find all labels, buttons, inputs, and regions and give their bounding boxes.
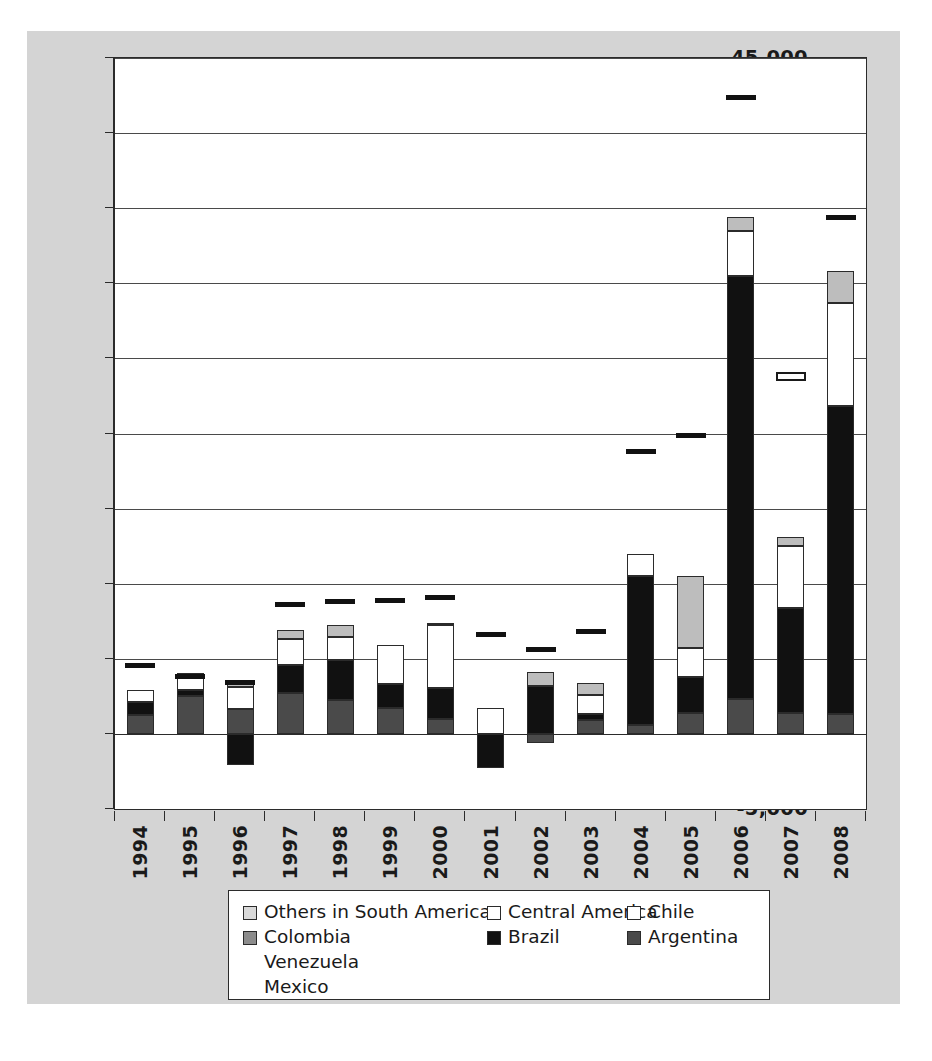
series-marker-mexico[interactable] <box>476 632 506 637</box>
series-marker-mexico[interactable] <box>225 680 255 685</box>
legend-swatch-icon <box>243 956 257 970</box>
x-axis-tick-label: 1995 <box>179 825 201 879</box>
legend-item-label: Chile <box>648 903 694 922</box>
legend-swatch-icon <box>243 931 257 945</box>
legend-column: Others in South AmericaColombiaVenezuela… <box>243 900 491 1000</box>
plot-frame <box>114 57 867 810</box>
x-axis-tick-mark <box>214 811 215 821</box>
legend-item[interactable]: Mexico <box>243 975 491 1000</box>
series-marker-mexico[interactable] <box>526 647 556 652</box>
x-axis-tick-mark <box>715 811 716 821</box>
x-axis-tick-label: 1996 <box>229 825 251 879</box>
x-axis-tick-label: 1999 <box>379 825 401 879</box>
legend-column: ChileArgentina <box>627 900 738 950</box>
x-axis-tick-label: 2005 <box>680 825 702 879</box>
x-axis-tick-mark <box>364 811 365 821</box>
series-marker-mexico[interactable] <box>676 433 706 438</box>
x-axis-tick-mark <box>515 811 516 821</box>
legend-item-label: Brazil <box>508 928 560 947</box>
legend-item[interactable]: Colombia <box>243 925 491 950</box>
page: 45,00040,00035,00030,00025,00020,00015,0… <box>0 0 932 1061</box>
x-axis-tick-label: 1994 <box>129 825 151 879</box>
legend-item-label: Venezuela <box>264 953 359 972</box>
x-axis-tick-mark <box>314 811 315 821</box>
plot-area <box>115 58 866 809</box>
legend-item-label: Colombia <box>264 928 351 947</box>
x-axis-tick-label: 2003 <box>580 825 602 879</box>
x-axis-tick-label: 2006 <box>730 825 752 879</box>
chart-legend: Others in South AmericaColombiaVenezuela… <box>228 890 770 1000</box>
legend-swatch-icon <box>487 931 501 945</box>
series-marker-mexico[interactable] <box>125 663 155 668</box>
legend-item[interactable]: Argentina <box>627 925 738 950</box>
bar-segment[interactable] <box>827 271 854 303</box>
x-axis-tick-mark <box>815 811 816 821</box>
legend-item[interactable]: Others in South America <box>243 900 491 925</box>
x-axis-tick-label: 2000 <box>429 825 451 879</box>
x-axis-tick-label: 1997 <box>279 825 301 879</box>
legend-swatch-icon <box>487 906 501 920</box>
legend-swatch-icon <box>627 906 641 920</box>
legend-swatch-icon <box>243 981 257 995</box>
x-axis-tick-mark <box>615 811 616 821</box>
y-axis-tick-mark <box>105 808 114 809</box>
x-axis-tick-mark <box>164 811 165 821</box>
x-axis-tick-mark <box>665 811 666 821</box>
x-axis-tick-mark <box>264 811 265 821</box>
x-axis-tick-mark <box>765 811 766 821</box>
legend-item[interactable]: Venezuela <box>243 950 491 975</box>
series-marker-mexico[interactable] <box>576 629 606 634</box>
x-axis-tick-label: 2002 <box>530 825 552 879</box>
bar-group[interactable] <box>115 58 866 809</box>
x-axis-tick-label: 2004 <box>630 825 652 879</box>
x-axis-tick-label: 2008 <box>830 825 852 879</box>
legend-item-label: Mexico <box>264 978 329 997</box>
x-axis-tick-mark <box>414 811 415 821</box>
x-axis-tick-label: 2007 <box>780 825 802 879</box>
legend-swatch-icon <box>627 931 641 945</box>
legend-item[interactable]: Chile <box>627 900 738 925</box>
series-marker-mexico[interactable] <box>425 595 455 600</box>
bar-segment[interactable] <box>827 303 854 407</box>
series-marker-mexico[interactable] <box>726 95 756 100</box>
series-marker-venezuela[interactable] <box>776 372 806 381</box>
x-axis-tick-label: 1998 <box>329 825 351 879</box>
x-axis-tick-mark <box>114 811 115 821</box>
series-marker-mexico[interactable] <box>826 215 856 220</box>
series-marker-mexico[interactable] <box>275 602 305 607</box>
bar-segment[interactable] <box>827 714 854 734</box>
series-marker-mexico[interactable] <box>175 674 205 679</box>
series-marker-mexico[interactable] <box>626 449 656 454</box>
x-axis-tick-label: 2001 <box>480 825 502 879</box>
x-axis-tick-mark <box>565 811 566 821</box>
x-axis-tick-mark <box>865 811 866 821</box>
legend-swatch-icon <box>243 906 257 920</box>
bar-segment[interactable] <box>827 406 854 714</box>
x-axis-tick-mark <box>464 811 465 821</box>
series-marker-mexico[interactable] <box>375 598 405 603</box>
legend-item-label: Argentina <box>648 928 738 947</box>
series-marker-mexico[interactable] <box>325 599 355 604</box>
legend-item-label: Others in South America <box>264 903 491 922</box>
